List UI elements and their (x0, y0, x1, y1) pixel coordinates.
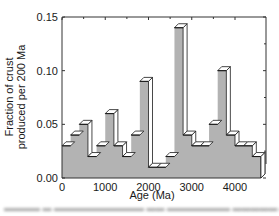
svg-text:Fraction of crust: Fraction of crust (3, 58, 15, 137)
svg-text:produced per 200 Ma: produced per 200 Ma (15, 44, 27, 149)
x-tick-label: 1000 (93, 181, 117, 193)
crust-production-histogram: 0.000.050.100.15 01000200030004000 Age (… (0, 0, 279, 216)
y-tick-label: 0.00 (37, 172, 58, 184)
x-tick-label: 0 (59, 181, 65, 193)
y-axis-title: Fraction of crust produced per 200 Ma (3, 44, 27, 149)
y-tick-label: 0.15 (37, 11, 58, 23)
histogram-bars (62, 24, 265, 178)
y-tick-label: 0.10 (37, 65, 58, 77)
x-tick-label: 4000 (223, 181, 247, 193)
y-tick-label: 0.05 (37, 118, 58, 130)
x-axis-title: Age (Ma) (129, 189, 174, 201)
figure-caption-blurred: ▬▬▬▬ ▬ ▬▬▬▬▬▬▬▬▬▬ ▬▬ ▬▬▬▬▬▬▬ ▬▬▬▬▬ ▬▬ ▬▬… (4, 203, 274, 212)
x-tick-label: 3000 (180, 181, 204, 193)
